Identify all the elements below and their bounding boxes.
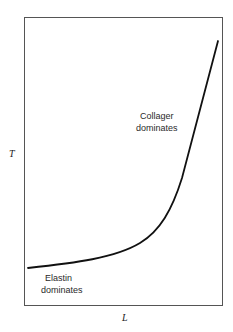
annotation-collagen-line1: Collager [140, 111, 174, 121]
plot-frame [25, 18, 223, 306]
y-axis-label: T [9, 148, 16, 159]
tension-curve [28, 41, 218, 268]
annotation-collagen-line2: dominates [136, 123, 178, 133]
tension-length-diagram: Collager dominates Elastin dominates T L [0, 0, 233, 332]
annotation-elastin-line2: dominates [41, 285, 83, 295]
x-axis-label: L [121, 312, 128, 323]
annotation-elastin-line1: Elastin [45, 273, 72, 283]
